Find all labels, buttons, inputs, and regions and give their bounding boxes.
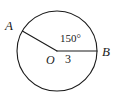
center-label-o: O: [46, 54, 55, 66]
radius-length-label: 3: [65, 53, 71, 65]
radius-line-oa: [22, 31, 57, 51]
circle-diagram-svg: [0, 0, 116, 111]
geometry-figure: A B O 3 150°: [0, 0, 116, 111]
point-label-b: B: [102, 45, 110, 58]
central-angle-label: 150°: [60, 33, 81, 44]
point-label-a: A: [5, 19, 13, 32]
